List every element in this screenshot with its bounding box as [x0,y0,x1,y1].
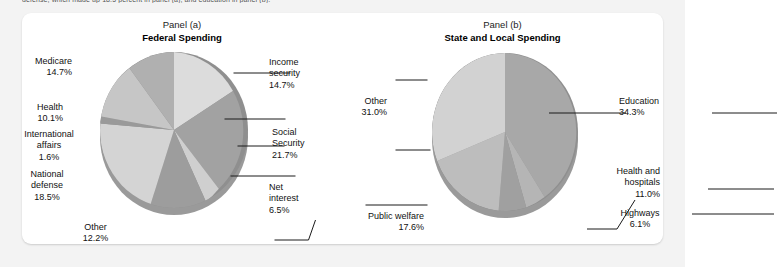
panel-state-and-local-spending: Panel (b) State and Local Spending [342,13,663,244]
callout-income-security-line-1: security [269,68,329,79]
callout-national-defense-line-0: National [25,169,69,180]
callout-medicare: Medicare 14.7% [24,56,72,79]
callout-other-state-local-line-0: Other [342,96,387,107]
callout-health-line-0: Health [24,102,63,113]
pie-chart-state-and-local-spending [429,50,581,225]
callout-national-defense-line-2: 18.5% [25,192,69,203]
callout-social-security-line-1: Security [272,138,332,149]
callout-health-line-1: 10.1% [24,113,63,124]
callout-national-defense: National defense 18.5% [25,169,69,203]
panel-a-title: Federal Spending [22,32,342,43]
callout-international-affairs: International affairs 1.6% [22,129,76,163]
callout-health-and-hospitals-line-0: Health and [592,166,660,177]
callout-other-federal-line-0: Other [77,222,114,233]
callout-other-state-local: Other 31.0% [342,96,387,119]
callout-highways: Highways 6.1% [616,208,664,231]
callout-education-line-1: 34.3% [619,107,681,118]
callout-medicare-line-1: 14.7% [24,67,72,78]
panel-a-label: Panel (a) [22,19,342,30]
callout-national-defense-line-1: defense [25,180,69,191]
pie-b-svg [429,50,581,225]
chart-card: Panel (a) Federal Spending [22,13,663,244]
callout-health-and-hospitals: Health and hospitals 11.0% [592,166,660,200]
pie-a-svg [98,50,250,220]
callout-other-state-local-line-1: 31.0% [342,107,387,118]
panel-b-label: Panel (b) [342,19,663,30]
callout-social-security-line-0: Social [272,127,332,138]
callout-public-welfare-line-0: Public welfare [342,211,424,222]
caption-fragment: defense, which made up 18.5 percent in p… [22,0,442,3]
callout-highways-line-0: Highways [616,208,664,219]
callout-education: Education 34.3% [619,96,681,119]
panel-federal-spending: Panel (a) Federal Spending [22,13,342,244]
callout-public-welfare: Public welfare 17.6% [342,211,424,234]
pie-chart-federal-spending [98,50,250,220]
callout-net-interest: Net interest 6.5% [269,182,329,216]
callout-highways-line-1: 6.1% [616,219,664,230]
callout-other-federal: Other 12.2% [77,222,114,245]
callout-international-affairs-line-0: International [22,129,76,140]
callout-health-and-hospitals-line-2: 11.0% [592,189,660,200]
callout-health-and-hospitals-line-1: hospitals [592,177,660,188]
panel-b-title: State and Local Spending [342,32,663,43]
callout-income-security: Income security 14.7% [269,57,329,91]
callout-other-federal-line-1: 12.2% [77,233,114,244]
callout-social-security: Social Security 21.7% [272,127,332,161]
callout-income-security-line-0: Income [269,57,329,68]
leader-other [275,220,316,240]
callout-net-interest-line-0: Net [269,182,329,193]
callout-medicare-line-0: Medicare [24,56,72,67]
callout-public-welfare-line-1: 17.6% [342,222,424,233]
callout-health: Health 10.1% [24,102,63,125]
callout-social-security-line-2: 21.7% [272,150,332,161]
callout-international-affairs-line-2: 1.6% [22,152,76,163]
callout-net-interest-line-2: 6.5% [269,205,329,216]
callout-education-line-0: Education [619,96,681,107]
callout-net-interest-line-1: interest [269,193,329,204]
pie-b-slices [432,53,576,211]
callout-income-security-line-2: 14.7% [269,80,329,91]
callout-international-affairs-line-1: affairs [22,140,76,151]
